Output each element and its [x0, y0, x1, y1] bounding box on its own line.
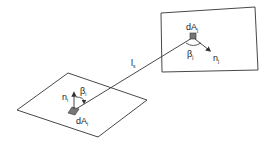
angle-arc-j — [186, 43, 201, 46]
connector-line-ls — [76, 38, 192, 109]
label-ni: ni — [62, 92, 68, 103]
label-nj: nj — [213, 53, 219, 64]
label-beta-j: βj — [187, 49, 193, 60]
angle-arc-i — [76, 97, 84, 102]
label-dAj: dAj — [186, 22, 198, 33]
label-beta-i: βi — [80, 86, 86, 97]
diagram-canvas: dAj βj nj ls ni βi dAi — [0, 0, 268, 143]
label-dAi: dAi — [76, 116, 88, 127]
area-patch-j — [190, 33, 196, 39]
label-ls: ls — [131, 58, 136, 69]
surface-j-plane — [161, 7, 258, 72]
